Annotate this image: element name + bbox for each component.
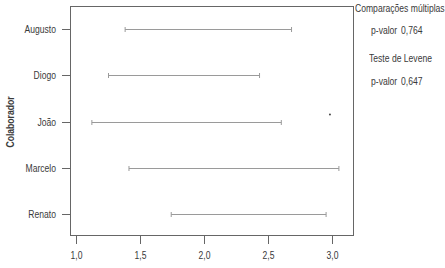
- x-tick-1-0: 1,0: [71, 236, 83, 261]
- svg-text:1,5: 1,5: [135, 249, 147, 261]
- interval-renato: [171, 212, 326, 217]
- multiple-comparisons-pvalue-label: p-valor: [371, 24, 397, 36]
- interval-diogo: [109, 73, 260, 78]
- y-tick-marcelo: Marcelo: [25, 162, 70, 174]
- interval-augusto: [125, 27, 291, 32]
- x-tick-1-5: 1,5: [135, 236, 147, 261]
- levene-title: Teste de Levene: [369, 52, 432, 64]
- svg-text:Augusto: Augusto: [25, 23, 57, 35]
- x-tick-2-0: 2,0: [199, 236, 211, 261]
- outlier-point: [329, 114, 331, 116]
- y-axis: Augusto Diogo João Marcelo Renato Colabo…: [4, 23, 70, 220]
- levene-pvalue: 0,647: [401, 75, 422, 87]
- plot-frame: [71, 7, 354, 236]
- y-axis-label: Colaborador: [4, 96, 16, 147]
- svg-text:3,0: 3,0: [327, 249, 339, 261]
- y-tick-diogo: Diogo: [34, 69, 70, 81]
- y-tick-augusto: Augusto: [25, 23, 70, 35]
- svg-text:2,0: 2,0: [199, 249, 211, 261]
- levene-pvalue-label: p-valor: [371, 75, 397, 87]
- x-tick-3-0: 3,0: [327, 236, 339, 261]
- multiple-comparisons-pvalue: 0,764: [401, 24, 422, 36]
- multiple-comparisons-title: Comparações múltiplas: [355, 2, 445, 14]
- interval-marcelo: [129, 166, 339, 171]
- svg-text:João: João: [37, 116, 56, 128]
- interval-joao: [92, 120, 281, 125]
- svg-text:Diogo: Diogo: [34, 69, 57, 81]
- y-tick-joao: João: [37, 116, 70, 128]
- x-tick-2-5: 2,5: [263, 236, 275, 261]
- interval-series: [92, 27, 339, 217]
- y-tick-renato: Renato: [28, 208, 70, 220]
- svg-text:1,0: 1,0: [71, 249, 83, 261]
- svg-text:Renato: Renato: [28, 208, 56, 220]
- svg-text:2,5: 2,5: [263, 249, 275, 261]
- svg-text:Marcelo: Marcelo: [25, 162, 56, 174]
- x-axis: 1,0 1,5 2,0 2,5 3,0: [71, 236, 339, 261]
